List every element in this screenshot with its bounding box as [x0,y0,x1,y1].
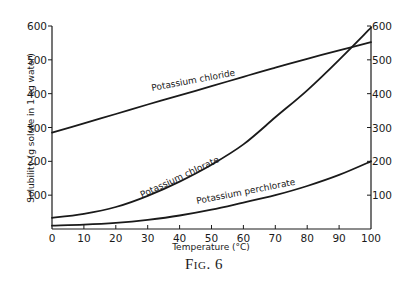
y-tick-label: 600 [27,20,47,32]
x-axis-title: Temperature (°C) [171,242,250,252]
label-potassium-chloride: Potassium chloride [151,68,237,93]
x-tick-label: 90 [332,232,345,244]
x-tick-label: 10 [77,232,90,244]
x-tick-label: 80 [301,232,314,244]
y-tick-label: 200 [372,155,392,167]
y-tick-label: 600 [372,20,392,32]
y-tick-label: 300 [372,122,392,134]
y-tick-label: 500 [372,54,392,66]
x-tick-label: 100 [361,232,381,244]
x-tick-label: 20 [109,232,122,244]
x-tick-label: 30 [141,232,154,244]
y-tick-label: 400 [372,88,392,100]
potassium-chlorate-curve [52,28,371,218]
x-tick-label: 70 [269,232,282,244]
y-tick-label: 100 [372,189,392,201]
y-axis-title: Solubility (g solute in 1 kg water) [26,53,36,202]
figure-caption: Fig. 6 [0,256,408,273]
potassium-chloride-curve [52,42,371,132]
x-tick-label: 0 [49,232,56,244]
solubility-chart: 0102030405060708090100 10020030040050060… [0,0,408,283]
